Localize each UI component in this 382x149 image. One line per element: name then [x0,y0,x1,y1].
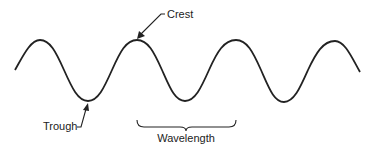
crest-annotation: Crest [137,8,193,39]
crest-label: Crest [167,8,193,20]
trough-leader-line [77,109,86,127]
wave-curve [15,40,360,102]
wavelength-brace-icon [137,120,236,131]
trough-annotation: Trough [43,103,89,132]
trough-arrowhead-icon [83,103,89,111]
crest-arrowhead-icon [137,31,145,39]
wavelength-label: Wavelength [157,132,215,144]
crest-leader-line [141,14,165,34]
wavelength-annotation: Wavelength [137,120,236,144]
wave-diagram: Crest Trough Wavelength [0,0,382,149]
trough-label: Trough [43,120,77,132]
